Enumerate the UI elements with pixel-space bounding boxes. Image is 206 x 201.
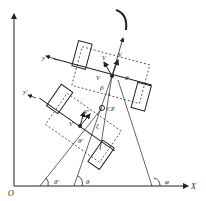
- body-y-label: y: [41, 54, 46, 62]
- theta-ground-label: θ: [86, 178, 90, 186]
- zeta-label: ζ: [96, 122, 100, 130]
- origin-label: O: [8, 189, 14, 198]
- vehicle-kinematics-diagram: O X x y y' V V V θ β s CP V' V' ζ θ' θ' …: [0, 0, 206, 201]
- phi-label: φ: [165, 178, 169, 186]
- theta-prime-rear-label: θ': [78, 137, 83, 145]
- theta-front-label: θ: [125, 74, 129, 82]
- theta-prime-ground-label: θ': [54, 178, 59, 186]
- diagram-svg: O X x y y' V V V θ β s CP V' V' ζ θ' θ' …: [0, 0, 206, 201]
- body-x-label: x: [120, 36, 125, 44]
- body-y-prime-label: y': [22, 88, 28, 96]
- x-axis-label: X: [190, 182, 197, 191]
- rotation-arrow-icon: [116, 10, 126, 30]
- beta-label: β: [99, 84, 104, 92]
- vy-front-label: V: [96, 75, 101, 81]
- vy-label: V: [102, 55, 107, 61]
- cp-label: CP: [107, 106, 115, 112]
- s-label: s: [108, 91, 111, 97]
- rear-vehicle: [26, 79, 129, 171]
- v-prime-label: V': [84, 109, 90, 115]
- vy-prime-label: V': [69, 121, 75, 127]
